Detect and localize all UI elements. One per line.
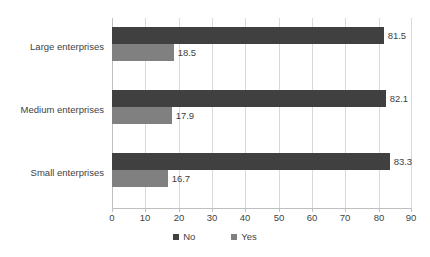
bar-group-large-enterprises: 81.5 18.5 xyxy=(112,27,412,63)
x-tick-label-90: 90 xyxy=(391,211,430,225)
legend-label-yes: Yes xyxy=(241,231,257,243)
bar-yes-medium-enterprises[interactable] xyxy=(112,107,172,124)
legend-swatch-no-icon xyxy=(173,234,179,240)
bar-no-large-enterprises[interactable] xyxy=(112,27,384,44)
bar-yes-small-enterprises[interactable] xyxy=(112,170,168,187)
bar-chart: 81.5 18.5 82.1 17.9 83.3 16.7 Large ente… xyxy=(0,0,430,257)
legend-item-no[interactable]: No xyxy=(173,231,195,243)
bar-value-no-large-enterprises: 81.5 xyxy=(384,27,407,44)
bar-value-yes-medium-enterprises: 17.9 xyxy=(172,107,195,124)
legend-swatch-yes-icon xyxy=(231,234,237,240)
bar-group-small-enterprises: 83.3 16.7 xyxy=(112,153,412,189)
category-label-large-enterprises: Large enterprises xyxy=(0,41,104,53)
plot-area: 81.5 18.5 82.1 17.9 83.3 16.7 xyxy=(112,18,412,208)
legend-label-no: No xyxy=(183,231,195,243)
category-axis-line xyxy=(112,208,412,209)
bar-no-medium-enterprises[interactable] xyxy=(112,90,386,107)
bar-no-small-enterprises[interactable] xyxy=(112,153,390,170)
category-label-small-enterprises: Small enterprises xyxy=(0,167,104,179)
legend-item-yes[interactable]: Yes xyxy=(231,231,257,243)
category-label-medium-enterprises: Medium enterprises xyxy=(0,104,104,116)
bar-value-yes-large-enterprises: 18.5 xyxy=(174,44,197,61)
bar-value-no-small-enterprises: 83.3 xyxy=(390,153,413,170)
bar-yes-large-enterprises[interactable] xyxy=(112,44,174,61)
bar-value-no-medium-enterprises: 82.1 xyxy=(386,90,409,107)
bar-value-yes-small-enterprises: 16.7 xyxy=(168,170,191,187)
bar-group-medium-enterprises: 82.1 17.9 xyxy=(112,90,412,126)
chart-legend: No Yes xyxy=(0,231,430,243)
